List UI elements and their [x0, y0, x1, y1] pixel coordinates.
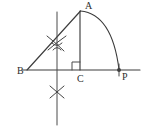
hypotenuse-ba-segment	[27, 11, 81, 70]
geometry-canvas: A B C P	[0, 0, 150, 133]
vertex-label-p: P	[122, 71, 128, 82]
right-angle-marker-at-c	[72, 62, 80, 70]
vertex-label-b: B	[17, 65, 24, 76]
vertex-label-c: C	[77, 73, 84, 84]
vertex-label-a: A	[85, 0, 93, 11]
geometry-figure: A B C P	[0, 0, 150, 133]
circumscribed-arc	[81, 11, 120, 70]
